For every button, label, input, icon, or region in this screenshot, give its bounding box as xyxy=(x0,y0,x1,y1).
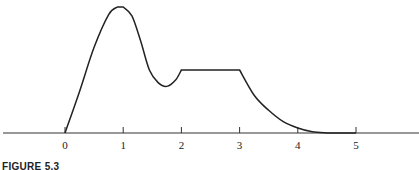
figure-caption: FIGURE 5.3 xyxy=(2,161,59,170)
x-tick-label: 1 xyxy=(120,139,126,151)
x-tick-label: 5 xyxy=(353,139,359,151)
x-tick-label: 4 xyxy=(295,139,301,151)
x-tick-label: 2 xyxy=(179,139,185,151)
curve-line xyxy=(65,7,356,133)
x-tick-label: 3 xyxy=(237,139,243,151)
x-tick-label: 0 xyxy=(62,139,68,151)
